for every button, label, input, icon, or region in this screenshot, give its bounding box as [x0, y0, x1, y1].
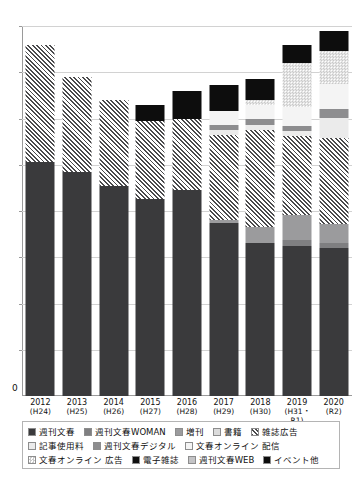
- x-label-year: 2015: [132, 398, 169, 407]
- legend-label: 雑誌広告: [262, 427, 298, 437]
- legend-label: 電子雑誌: [143, 455, 179, 465]
- stacked-bar[interactable]: [136, 105, 165, 396]
- legend-label: 週刊文春WEB: [199, 455, 255, 465]
- bar-segment-shunju: [246, 243, 275, 396]
- stacked-bar[interactable]: [173, 91, 202, 396]
- bar-segment-shunju: [319, 248, 348, 396]
- legend-swatch-kijishiyo: [28, 442, 36, 450]
- legend-label: イベント他: [274, 455, 319, 465]
- bar-segment-shunju: [209, 223, 238, 396]
- x-axis-label: 2020(R2): [315, 398, 352, 420]
- bar-segment-event: [319, 31, 348, 52]
- stacked-bar[interactable]: [26, 45, 55, 396]
- legend-item-zasshiad[interactable]: 雑誌広告: [251, 427, 298, 437]
- x-label-era: (H27): [132, 407, 169, 416]
- legend-swatch-event: [263, 456, 271, 464]
- bar-segment-onlinead: [319, 51, 348, 83]
- x-axis-label: 2015(H27): [132, 398, 169, 420]
- x-label-year: 2019: [279, 398, 316, 407]
- x-axis-labels: 2012(H24)2013(H25)2014(H26)2015(H27)2016…: [22, 398, 352, 420]
- legend-item-woman[interactable]: 週刊文春WOMAN: [84, 427, 166, 437]
- bar-segment-zasshiad: [99, 100, 128, 186]
- stacked-bar[interactable]: [319, 31, 348, 396]
- bar-segment-onlinead: [283, 63, 312, 107]
- bar-segment-shunju: [99, 186, 128, 396]
- legend-label: 週刊文春デジタル: [104, 441, 176, 451]
- x-axis-label: 2017(H29): [205, 398, 242, 420]
- bar-slot: [315, 26, 352, 396]
- legend-swatch-haishin: [185, 442, 193, 450]
- x-axis-label: 2016(H28): [169, 398, 206, 420]
- x-axis-label: 2013(H25): [59, 398, 96, 420]
- legend-label: 週刊文春: [39, 427, 75, 437]
- legend-swatch-onlinead: [28, 456, 36, 464]
- stacked-bar[interactable]: [63, 77, 92, 396]
- stacked-bar[interactable]: [209, 85, 238, 396]
- bar-segment-event: [246, 79, 275, 100]
- legend-item-zokan[interactable]: 増刊: [175, 427, 204, 437]
- x-axis-label: 2014(H26): [95, 398, 132, 420]
- bar-segment-haishin: [246, 105, 275, 119]
- legend-swatch-woman: [84, 428, 92, 436]
- y-axis-zero-label: 0: [12, 384, 18, 393]
- x-label-era: (H29): [205, 407, 242, 416]
- x-label-year: 2020: [315, 398, 352, 407]
- plot-area: 0: [0, 0, 360, 400]
- bar-slot: [59, 26, 96, 396]
- legend-item-kijishiyo[interactable]: 記事使用料: [28, 441, 84, 451]
- legend-item-shoseki[interactable]: 書籍: [213, 427, 242, 437]
- legend-label: 週刊文春WOMAN: [95, 427, 166, 437]
- legend-label: 増刊: [186, 427, 204, 437]
- legend-swatch-zokan: [175, 428, 183, 436]
- bar-segment-event: [283, 45, 312, 64]
- legend-item-haishin[interactable]: 文春オンライン 配信: [185, 441, 280, 451]
- legend-item-denshi[interactable]: 電子雑誌: [132, 455, 179, 465]
- bar-segment-zasshiad: [319, 138, 348, 224]
- bar-segment-zokan: [246, 227, 275, 243]
- bar-slot: [132, 26, 169, 396]
- bar-segment-digital: [319, 109, 348, 117]
- stacked-bar[interactable]: [99, 100, 128, 396]
- x-axis-label: 2018(H30): [242, 398, 279, 420]
- bar-segment-haishin: [319, 84, 348, 109]
- legend-label: 書籍: [224, 427, 242, 437]
- stacked-bar[interactable]: [246, 79, 275, 396]
- legend-swatch-shunju: [28, 428, 36, 436]
- bar-segment-shunju: [26, 162, 55, 396]
- bar-slot: [279, 26, 316, 396]
- x-label-year: 2016: [169, 398, 206, 407]
- bar-slot: [205, 26, 242, 396]
- legend-item-onlinead[interactable]: 文春オンライン 広告: [28, 455, 123, 465]
- legend-swatch-zasshiad: [251, 428, 259, 436]
- legend-label: 文春オンライン 配信: [196, 441, 280, 451]
- bar-group: [22, 26, 352, 396]
- legend-swatch-shoseki: [213, 428, 221, 436]
- legend-row: 記事使用料週刊文春デジタル文春オンライン 配信: [28, 439, 334, 453]
- bar-segment-haishin: [209, 111, 238, 125]
- legend-swatch-web: [188, 456, 196, 464]
- x-label-era: (H30): [242, 407, 279, 416]
- legend-swatch-digital: [93, 442, 101, 450]
- legend-label: 文春オンライン 広告: [39, 455, 123, 465]
- legend-item-digital[interactable]: 週刊文春デジタル: [93, 441, 176, 451]
- bar-segment-shunju: [283, 246, 312, 396]
- legend-item-event[interactable]: イベント他: [263, 455, 319, 465]
- bar-segment-shunju: [63, 172, 92, 396]
- x-label-year: 2018: [242, 398, 279, 407]
- bar-segment-event: [173, 91, 202, 119]
- bar-segment-zasshiad: [136, 121, 165, 200]
- bar-segment-zokan: [319, 224, 348, 243]
- x-label-year: 2017: [205, 398, 242, 407]
- bar-segment-zasshiad: [283, 136, 312, 215]
- legend-item-shunju[interactable]: 週刊文春: [28, 427, 75, 437]
- chart-page: 0 2012(H24)2013(H25)2014(H26)2015(H27)20…: [0, 0, 360, 477]
- x-label-era: (H26): [95, 407, 132, 416]
- legend-item-web[interactable]: 週刊文春WEB: [188, 455, 255, 465]
- x-label-era: (H28): [169, 407, 206, 416]
- stacked-bar[interactable]: [283, 45, 312, 396]
- x-axis-label: 2012(H24): [22, 398, 59, 420]
- x-label-year: 2014: [95, 398, 132, 407]
- bar-segment-digital: [246, 119, 275, 126]
- bar-slot: [169, 26, 206, 396]
- bar-segment-zasshiad: [209, 135, 238, 221]
